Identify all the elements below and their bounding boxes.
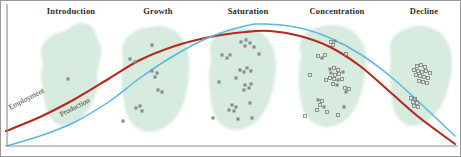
firm-marker-filled: [232, 109, 235, 112]
firm-marker-filled: [322, 105, 325, 108]
markers-introduction: [66, 77, 69, 80]
firm-marker-filled: [342, 105, 345, 108]
firm-marker-filled: [66, 77, 69, 80]
firm-marker-filled: [133, 60, 136, 63]
firm-marker-filled: [236, 117, 239, 120]
firm-marker-filled: [211, 116, 214, 119]
firm-marker-filled: [257, 52, 260, 55]
firm-marker-filled: [249, 82, 252, 85]
firm-marker-filled: [160, 90, 163, 93]
firm-marker-filled: [341, 70, 344, 73]
firm-marker-filled: [121, 119, 124, 122]
firm-marker-filled: [155, 71, 158, 74]
firm-marker-filled: [329, 71, 332, 74]
firm-marker-filled: [335, 83, 338, 86]
firm-marker-filled: [239, 40, 242, 43]
firm-marker-filled: [248, 101, 251, 104]
firm-marker-filled: [234, 76, 237, 79]
firm-marker-filled: [252, 45, 255, 48]
firm-marker-filled: [242, 70, 245, 73]
firm-marker-filled: [140, 109, 143, 112]
firm-marker-filled: [150, 43, 153, 46]
firm-marker-filled: [316, 98, 319, 101]
firm-marker-filled: [128, 57, 131, 60]
firm-marker-filled: [244, 38, 247, 41]
firm-marker-filled: [344, 90, 347, 93]
figure-canvas: [0, 0, 461, 157]
firm-marker-filled: [245, 66, 248, 69]
firm-marker-filled: [153, 75, 156, 78]
firm-marker-filled: [156, 88, 159, 91]
firm-marker-filled: [328, 67, 331, 70]
firm-marker-filled: [248, 41, 251, 44]
firm-marker-filled: [243, 44, 246, 47]
firm-marker-filled: [150, 69, 153, 72]
firm-marker-filled: [238, 68, 241, 71]
firm-marker-filled: [227, 108, 230, 111]
firm-marker-filled: [217, 80, 220, 83]
firm-marker-filled: [249, 69, 252, 72]
firm-marker-filled: [242, 88, 245, 91]
firm-marker-filled: [230, 103, 233, 106]
firm-marker-filled: [134, 106, 137, 109]
firm-marker-filled: [247, 86, 250, 89]
firm-marker-filled: [138, 104, 141, 107]
firm-marker-filled: [225, 56, 228, 59]
industry-life-cycle-figure: IntroductionGrowthSaturationConcentratio…: [0, 0, 461, 157]
firm-marker-filled: [243, 83, 246, 86]
firm-marker-filled: [333, 39, 336, 42]
firm-marker-filled: [250, 116, 253, 119]
firm-marker-filled: [220, 53, 223, 56]
firm-marker-filled: [336, 78, 339, 81]
firm-marker-filled: [234, 105, 237, 108]
firm-marker-filled: [228, 53, 231, 56]
